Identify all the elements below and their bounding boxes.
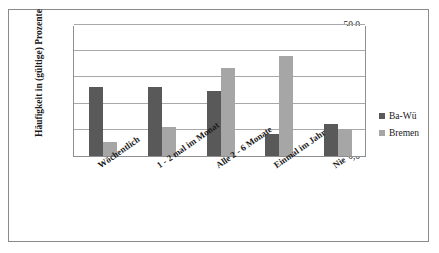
chart-legend: Ba-WüBremen — [379, 111, 419, 145]
gridline — [74, 24, 365, 25]
legend-label: Bremen — [389, 128, 419, 138]
bar — [89, 87, 103, 156]
legend-swatch-icon — [379, 130, 385, 136]
gridline — [74, 50, 365, 51]
bar — [221, 68, 235, 156]
legend-swatch-icon — [379, 113, 385, 119]
bar — [279, 56, 293, 156]
bar — [324, 124, 338, 156]
bar — [148, 87, 162, 156]
legend-item: Bremen — [379, 128, 419, 138]
chart-figure: Häufigkeit in (gültige) Prozente 50,040,… — [8, 9, 429, 242]
bar — [338, 129, 352, 156]
legend-item: Ba-Wü — [379, 111, 419, 121]
bar — [265, 134, 279, 156]
y-axis-title: Häufigkeit in (gültige) Prozente — [34, 0, 44, 148]
legend-label: Ba-Wü — [389, 111, 416, 121]
gridline — [74, 76, 365, 77]
